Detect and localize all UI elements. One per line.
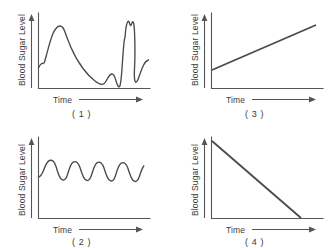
x-axis-label-4: Time: [226, 225, 245, 235]
y-axis-arrow-4: [202, 138, 208, 218]
chart-panel-4: Blood Sugar Level Time ( 4 ): [165, 124, 330, 248]
panel-caption-2: ( 2 ): [72, 237, 91, 247]
x-axis-label-3: Time: [226, 95, 245, 105]
plot-axes-3: [212, 13, 324, 89]
y-axis-arrow-1: [29, 14, 35, 88]
y-axis-label-3: Blood Sugar Level: [190, 14, 200, 86]
chart-panel-3: Blood Sugar Level Time ( 3 ): [165, 0, 330, 124]
data-line-4: [212, 141, 301, 218]
data-curve-2: [39, 160, 144, 181]
x-axis-arrow-2: [79, 227, 143, 233]
chart-panel-1: Blood Sugar Level Time ( 1 ): [0, 0, 165, 124]
data-line-3: [212, 25, 316, 70]
x-axis-label-1: Time: [53, 95, 72, 105]
y-axis-arrow-2: [29, 138, 35, 218]
x-axis-label-2: Time: [53, 225, 72, 235]
panel-caption-3: ( 3 ): [245, 109, 264, 119]
x-axis-arrow-1: [79, 97, 143, 103]
y-axis-arrow-3: [202, 14, 208, 88]
data-curve-1: [39, 21, 149, 87]
chart-panel-2: Blood Sugar Level Time ( 2 ): [0, 124, 165, 248]
y-axis-label-4: Blood Sugar Level: [190, 144, 200, 216]
x-axis-arrow-4: [252, 227, 316, 233]
plot-axes-4: [212, 137, 324, 219]
y-axis-label-2: Blood Sugar Level: [17, 144, 27, 216]
y-axis-label-1: Blood Sugar Level: [17, 14, 27, 86]
blood-sugar-graphs-figure: Blood Sugar Level Time ( 1 ) Bloo: [0, 0, 330, 248]
panel-caption-1: ( 1 ): [72, 109, 91, 119]
plot-axes-2: [39, 137, 151, 219]
x-axis-arrow-3: [252, 97, 316, 103]
panel-caption-4: ( 4 ): [245, 237, 264, 247]
